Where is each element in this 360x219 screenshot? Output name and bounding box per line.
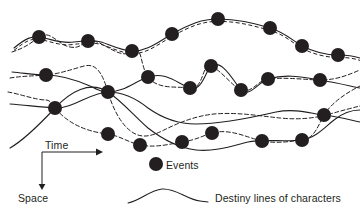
event-node xyxy=(205,126,219,140)
destiny-lines-diagram: Time Space Events Destiny lines of chara… xyxy=(0,0,360,219)
event-node xyxy=(81,34,95,48)
event-node xyxy=(165,27,179,41)
legend-label-destiny-lines: Destiny lines of characters xyxy=(215,192,341,204)
event-node xyxy=(263,21,277,35)
destiny-line-shadow xyxy=(14,21,360,60)
destiny-line xyxy=(14,19,360,58)
event-node xyxy=(101,127,115,141)
space-axis-label: Space xyxy=(18,192,48,204)
event-node xyxy=(295,39,309,53)
event-node xyxy=(255,134,269,148)
event-node xyxy=(39,68,53,82)
legend-event-swatch-icon xyxy=(149,157,163,171)
event-node xyxy=(261,72,275,86)
event-node xyxy=(234,83,248,97)
event-node xyxy=(175,135,189,149)
event-node xyxy=(211,12,225,26)
event-node xyxy=(317,108,331,122)
legend-label-events: Events xyxy=(166,159,199,171)
legend-destiny-curve-icon xyxy=(128,189,208,203)
axes-group xyxy=(39,149,103,190)
event-node xyxy=(133,138,147,152)
event-node xyxy=(32,30,46,44)
space-axis-arrowhead xyxy=(39,184,46,190)
diagram-canvas xyxy=(0,0,360,219)
event-node xyxy=(204,59,218,73)
event-node xyxy=(313,73,327,87)
event-node xyxy=(331,48,345,62)
time-axis-label: Time xyxy=(45,139,68,151)
event-node xyxy=(295,133,309,147)
event-node xyxy=(101,85,115,99)
event-node xyxy=(125,44,139,58)
time-axis-arrowhead xyxy=(96,149,103,156)
event-node xyxy=(141,70,155,84)
event-node xyxy=(48,101,62,115)
destiny-line xyxy=(10,92,360,124)
event-node xyxy=(183,81,197,95)
